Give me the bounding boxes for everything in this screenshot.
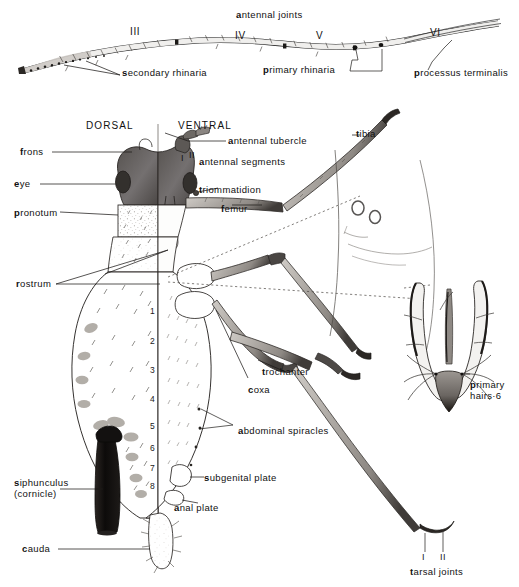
antennal-segment-numeral-VI: VI: [430, 27, 441, 38]
aphid-morphology-figure: [0, 0, 519, 587]
label-primary-rhinaria: primary rhinaria: [263, 64, 335, 75]
abdominal-segment-number-1: 1: [150, 306, 155, 316]
label-eye: eye: [14, 178, 30, 189]
antennal-segment-numeral-V: V: [316, 30, 323, 41]
abdominal-segment-number-2: 2: [150, 336, 155, 346]
hind-femur: [212, 300, 284, 372]
triommatidion-shape: [193, 190, 198, 195]
compound-eye-dorsal: [116, 171, 131, 193]
label-coxa: coxa: [248, 384, 270, 395]
abdominal-segment-number-8: 8: [150, 481, 155, 491]
label-frons: frons: [20, 146, 43, 157]
label-subgenital-plate: subgenital plate: [204, 472, 277, 483]
label-secondary-rhinaria: secondary rhinaria: [122, 67, 207, 78]
label-processus-terminalis: processus terminalis: [414, 67, 508, 78]
label-primary-hairs: primary hairs·6: [470, 380, 505, 401]
tarsal-joint-numeral-II: II: [440, 552, 446, 562]
antennal-segment-numeral-II: II: [189, 150, 195, 160]
hind-tibia: [292, 366, 420, 532]
antennal-segment-numeral-I: I: [181, 153, 184, 163]
dorsal-heading: DORSAL: [86, 120, 134, 131]
antennal-joint-IV-V: [283, 44, 286, 49]
abdominal-segment-number-5: 5: [150, 421, 155, 431]
pronotum-shape: [118, 205, 158, 237]
label-tibia: tibia: [356, 128, 376, 139]
siphunculus-shape: [95, 440, 120, 532]
antennal-joint-III-IV: [175, 40, 178, 45]
label-abdominal-spiracles: abdominal spiracles: [238, 425, 329, 436]
hind-tarsus: [420, 521, 454, 533]
antennal-segment-numeral-III: III: [130, 26, 140, 37]
ventral-heading: VENTRAL: [178, 120, 232, 131]
label-antennal-segments: antennal segments: [199, 156, 285, 167]
label-anal-plate: anal plate: [174, 502, 219, 513]
label-pronotum: pronotum: [14, 207, 57, 218]
label-siphunculus: siphunculus (cornicle): [14, 478, 69, 499]
cauda-shape: [149, 513, 173, 569]
label-triommatidion: triommatidion: [199, 184, 261, 195]
label-cauda: cauda: [22, 543, 50, 554]
fore-tarsus: [382, 109, 400, 124]
mesothorax-dorsal: [108, 237, 158, 272]
mid-coxa: [177, 264, 215, 289]
antennal-joints-heading: antennal joints: [236, 9, 303, 20]
mid-tibia: [281, 258, 358, 352]
cauda-detail-tip: [436, 371, 463, 412]
abdominal-segment-number-7: 7: [150, 463, 155, 473]
label-trochanter: trochanter: [262, 366, 309, 377]
abdominal-segment-number-4: 4: [150, 394, 155, 404]
label-tarsal-joints: tarsal joints: [410, 566, 463, 577]
label-femur: femur: [221, 203, 248, 214]
ghost-eye-right: [370, 211, 381, 224]
tarsal-joint-numeral-I: I: [422, 552, 425, 562]
hind-coxa: [175, 292, 214, 319]
thorax-illustration: [108, 205, 186, 272]
label-rostrum: rostrum: [16, 278, 51, 289]
antennal-segment-numeral-IV: IV: [235, 30, 246, 41]
label-antennal-tubercle: antennal tubercle: [228, 135, 307, 146]
abdominal-segment-number-3: 3: [150, 365, 155, 375]
subgenital-plate-shape: [170, 465, 191, 487]
mid-femur: [211, 255, 271, 281]
abdominal-segment-number-6: 6: [150, 443, 155, 453]
ghost-eye-left: [352, 201, 364, 215]
